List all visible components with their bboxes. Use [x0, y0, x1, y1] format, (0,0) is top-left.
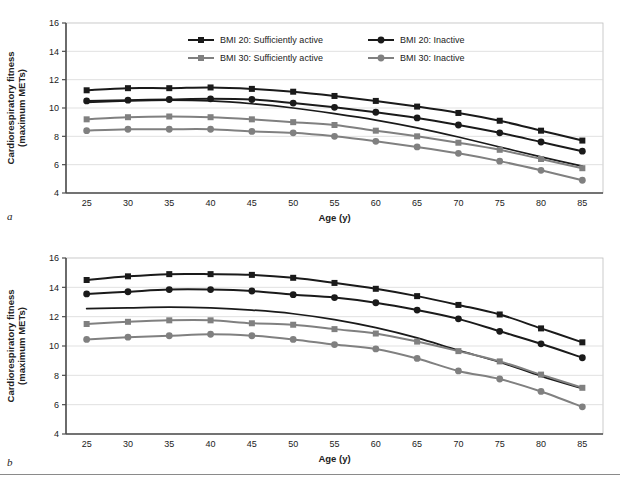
y-axis-title-line1: Cardiorespiratory fitness	[5, 52, 16, 165]
data-point-marker	[373, 331, 379, 337]
x-tick-label: 70	[453, 439, 463, 449]
data-point-marker	[290, 291, 297, 298]
x-tick-label: 60	[371, 198, 381, 208]
legend-label-2: BMI 30: Sufficiently active	[220, 53, 323, 63]
data-point-marker	[373, 98, 379, 104]
y-tick-label: 14	[49, 47, 59, 57]
x-tick-label: 50	[288, 439, 298, 449]
data-point-marker	[83, 127, 90, 134]
legend-label-3: BMI 30: Inactive	[400, 53, 465, 63]
data-point-marker	[208, 317, 214, 323]
legend-label-1: BMI 20: Inactive	[400, 35, 465, 45]
data-point-marker	[290, 336, 297, 343]
data-point-marker	[248, 128, 255, 135]
data-point-marker	[83, 98, 90, 105]
y-tick-label: 16	[49, 253, 59, 263]
data-point-marker	[125, 334, 132, 341]
data-point-marker	[372, 138, 379, 145]
data-point-marker	[372, 109, 379, 116]
chart-svg-b: 4681012141625303540455055606570758085Age…	[0, 232, 620, 484]
data-point-marker	[208, 114, 214, 120]
data-point-marker	[125, 288, 132, 295]
y-axis-title: Cardiorespiratory fitness(maximum METs)	[5, 52, 27, 165]
y-tick-label: 4	[54, 429, 59, 439]
data-point-marker	[290, 275, 296, 281]
x-tick-label: 75	[495, 198, 505, 208]
x-tick-label: 50	[288, 198, 298, 208]
x-tick-label: 35	[164, 439, 174, 449]
x-tick-label: 70	[453, 198, 463, 208]
data-point-marker	[414, 115, 421, 122]
data-point-marker	[84, 116, 90, 122]
data-point-marker	[414, 144, 421, 151]
data-point-marker	[538, 167, 545, 174]
y-tick-label: 10	[49, 341, 59, 351]
data-point-marker	[248, 332, 255, 339]
data-point-marker	[579, 339, 585, 345]
x-tick-label: 35	[164, 198, 174, 208]
data-point-marker	[455, 368, 462, 375]
x-tick-label: 85	[577, 198, 587, 208]
chart-panel-a: 4681012141625303540455055606570758085Age…	[0, 0, 620, 232]
data-point-marker	[455, 140, 461, 146]
data-point-marker	[249, 116, 255, 122]
data-point-marker	[208, 84, 214, 90]
legend-label-0: BMI 20: Sufficiently active	[220, 35, 323, 45]
x-tick-label: 25	[82, 198, 92, 208]
x-tick-label: 60	[371, 439, 381, 449]
data-point-marker	[207, 286, 214, 293]
data-point-marker	[455, 302, 461, 308]
data-point-marker	[373, 286, 379, 292]
chart-svg-a: 4681012141625303540455055606570758085Age…	[0, 0, 620, 232]
data-point-marker	[166, 317, 172, 323]
y-axis-title-line2: (maximum METs)	[16, 307, 27, 385]
x-tick-label: 65	[412, 198, 422, 208]
legend-marker-square-0	[198, 37, 204, 43]
data-point-marker	[207, 331, 214, 338]
x-tick-label: 25	[82, 439, 92, 449]
y-tick-label: 12	[49, 75, 59, 85]
data-point-marker	[414, 293, 420, 299]
data-point-marker	[248, 96, 255, 103]
data-point-marker	[538, 340, 545, 347]
y-tick-label: 16	[49, 18, 59, 28]
data-point-marker	[497, 358, 503, 364]
x-tick-label: 30	[123, 439, 133, 449]
x-tick-label: 80	[536, 198, 546, 208]
figure-bottom-rule	[0, 474, 620, 475]
x-tick-label: 55	[329, 439, 339, 449]
data-point-marker	[538, 156, 544, 162]
data-point-marker	[83, 291, 90, 298]
data-point-marker	[125, 85, 131, 91]
data-point-marker	[538, 325, 544, 331]
legend-marker-circle-1	[378, 37, 385, 44]
y-tick-label: 6	[54, 400, 59, 410]
data-point-marker	[166, 85, 172, 91]
x-tick-label: 85	[577, 439, 587, 449]
data-point-marker	[125, 273, 131, 279]
y-axis-title-line2: (maximum METs)	[16, 69, 27, 147]
data-point-marker	[538, 372, 544, 378]
data-point-marker	[538, 388, 545, 395]
data-point-marker	[373, 128, 379, 134]
data-point-marker	[331, 294, 338, 301]
data-point-marker	[249, 272, 255, 278]
data-point-marker	[331, 133, 338, 140]
figure-root: 4681012141625303540455055606570758085Age…	[0, 0, 620, 484]
data-point-marker	[290, 322, 296, 328]
data-point-marker	[84, 277, 90, 283]
data-point-marker	[290, 129, 297, 136]
data-point-marker	[372, 299, 379, 306]
x-tick-label: 75	[495, 439, 505, 449]
data-point-marker	[497, 147, 503, 153]
data-point-marker	[208, 271, 214, 277]
y-tick-label: 8	[54, 132, 59, 142]
legend-marker-square-2	[198, 55, 204, 61]
data-point-marker	[414, 104, 420, 110]
x-tick-label: 30	[123, 198, 133, 208]
data-point-marker	[166, 126, 173, 133]
y-axis-title: Cardiorespiratory fitness(maximum METs)	[5, 290, 27, 403]
x-tick-label: 80	[536, 439, 546, 449]
data-point-marker	[455, 110, 461, 116]
data-point-marker	[290, 119, 296, 125]
